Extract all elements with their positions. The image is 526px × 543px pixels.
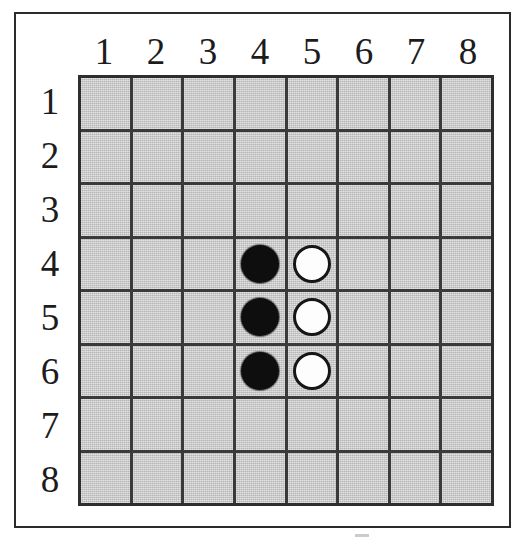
board-cell[interactable]	[133, 78, 182, 129]
board-cell[interactable]	[236, 399, 285, 450]
board-cell[interactable]	[288, 185, 337, 236]
board-cell[interactable]	[184, 239, 233, 290]
figure-canvas: 1 2 3 4 5 6 7 8 1 2 3 4 5 6 7 8	[0, 0, 526, 543]
board-cell[interactable]	[339, 239, 388, 290]
column-header-2: 2	[130, 22, 182, 72]
white-disc[interactable]	[293, 298, 331, 336]
row-header-4: 4	[24, 237, 76, 291]
board-cell[interactable]	[339, 346, 388, 397]
board-cell[interactable]	[81, 132, 130, 183]
board-cell[interactable]	[288, 132, 337, 183]
board-cell[interactable]	[81, 346, 130, 397]
column-header-row: 1 2 3 4 5 6 7 8	[78, 22, 494, 72]
black-disc[interactable]	[241, 298, 279, 336]
board-cell[interactable]	[288, 78, 337, 129]
board-cell[interactable]	[184, 453, 233, 504]
board-cell[interactable]	[236, 78, 285, 129]
row-header-3: 3	[24, 183, 76, 237]
board-cell[interactable]	[442, 78, 491, 129]
board-cell[interactable]	[81, 239, 130, 290]
board-cell[interactable]	[288, 239, 337, 290]
board-cell[interactable]	[133, 185, 182, 236]
row-header-6: 6	[24, 344, 76, 398]
board-cell[interactable]	[339, 185, 388, 236]
board-cell[interactable]	[236, 453, 285, 504]
board-cell[interactable]	[339, 399, 388, 450]
board-cell[interactable]	[236, 292, 285, 343]
board-cell[interactable]	[442, 239, 491, 290]
column-header-8: 8	[442, 22, 494, 72]
white-disc[interactable]	[293, 245, 331, 283]
column-header-5: 5	[286, 22, 338, 72]
board-cell[interactable]	[339, 453, 388, 504]
board-cell[interactable]	[391, 399, 440, 450]
board-cell[interactable]	[288, 292, 337, 343]
board-cell[interactable]	[442, 292, 491, 343]
row-header-column: 1 2 3 4 5 6 7 8	[24, 75, 76, 506]
row-header-5: 5	[24, 291, 76, 345]
board-cell[interactable]	[184, 292, 233, 343]
board-cell[interactable]	[133, 239, 182, 290]
board-cell[interactable]	[184, 346, 233, 397]
board-cell[interactable]	[133, 399, 182, 450]
board-cell[interactable]	[81, 292, 130, 343]
board-cell[interactable]	[339, 132, 388, 183]
board-cell[interactable]	[236, 239, 285, 290]
board-cell[interactable]	[236, 346, 285, 397]
column-header-4: 4	[234, 22, 286, 72]
board-cell[interactable]	[391, 78, 440, 129]
board-cell[interactable]	[391, 239, 440, 290]
board-cell[interactable]	[442, 185, 491, 236]
black-disc[interactable]	[241, 352, 279, 390]
row-header-8: 8	[24, 452, 76, 506]
black-disc[interactable]	[241, 245, 279, 283]
scan-artifact	[355, 534, 369, 537]
column-header-7: 7	[390, 22, 442, 72]
row-header-1: 1	[24, 75, 76, 129]
board-cell[interactable]	[236, 185, 285, 236]
column-header-3: 3	[182, 22, 234, 72]
row-header-7: 7	[24, 398, 76, 452]
board-cell[interactable]	[391, 132, 440, 183]
board-cell[interactable]	[133, 453, 182, 504]
row-header-2: 2	[24, 129, 76, 183]
column-header-6: 6	[338, 22, 390, 72]
board-cell[interactable]	[288, 346, 337, 397]
white-disc[interactable]	[293, 352, 331, 390]
board-cell[interactable]	[442, 346, 491, 397]
board-cell[interactable]	[391, 292, 440, 343]
board-cell[interactable]	[288, 399, 337, 450]
board-cell[interactable]	[391, 185, 440, 236]
board-cell[interactable]	[442, 453, 491, 504]
board-cell[interactable]	[236, 132, 285, 183]
board-cell[interactable]	[339, 292, 388, 343]
board-cell[interactable]	[391, 453, 440, 504]
board-cell[interactable]	[184, 185, 233, 236]
board-cell[interactable]	[81, 399, 130, 450]
board-cell[interactable]	[184, 78, 233, 129]
board-cell[interactable]	[133, 346, 182, 397]
board-cell[interactable]	[184, 132, 233, 183]
board-cell[interactable]	[81, 78, 130, 129]
board-cell[interactable]	[81, 453, 130, 504]
board-cell[interactable]	[81, 185, 130, 236]
column-header-1: 1	[78, 22, 130, 72]
board-cell[interactable]	[442, 399, 491, 450]
board-cell[interactable]	[133, 292, 182, 343]
board-cell[interactable]	[339, 78, 388, 129]
board-cell[interactable]	[442, 132, 491, 183]
game-board[interactable]	[78, 75, 494, 506]
board-cell[interactable]	[391, 346, 440, 397]
board-cell[interactable]	[288, 453, 337, 504]
board-cell[interactable]	[184, 399, 233, 450]
board-cell[interactable]	[133, 132, 182, 183]
